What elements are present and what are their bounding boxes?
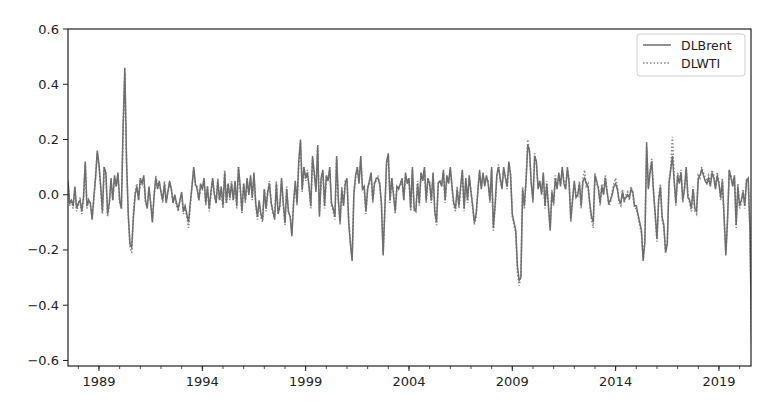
legend-label-dlbrent: DLBrent xyxy=(681,38,732,53)
line-chart: −0.6−0.4−0.20.00.20.40.61989199419992004… xyxy=(0,0,772,410)
y-tick-label: 0.4 xyxy=(38,77,59,92)
x-tick-label: 2009 xyxy=(496,374,529,389)
legend-label-dlwti: DLWTI xyxy=(681,56,720,71)
y-tick-label: −0.2 xyxy=(27,242,59,257)
y-tick-label: −0.6 xyxy=(27,353,59,368)
y-tick-label: −0.4 xyxy=(27,298,59,313)
series-line-dlbrent xyxy=(68,68,755,350)
x-tick-label: 1999 xyxy=(289,374,322,389)
y-tick-label: 0.0 xyxy=(38,187,59,202)
x-tick-label: 2019 xyxy=(702,374,735,389)
x-tick-label: 2004 xyxy=(392,374,425,389)
legend: DLBrent DLWTI xyxy=(637,34,745,76)
x-tick-label: 1994 xyxy=(186,374,219,389)
series-layer xyxy=(68,57,755,353)
x-tick-label: 1989 xyxy=(82,374,115,389)
x-tick-label: 2014 xyxy=(599,374,632,389)
y-tick-label: 0.6 xyxy=(38,22,59,37)
y-tick-label: 0.2 xyxy=(38,132,59,147)
